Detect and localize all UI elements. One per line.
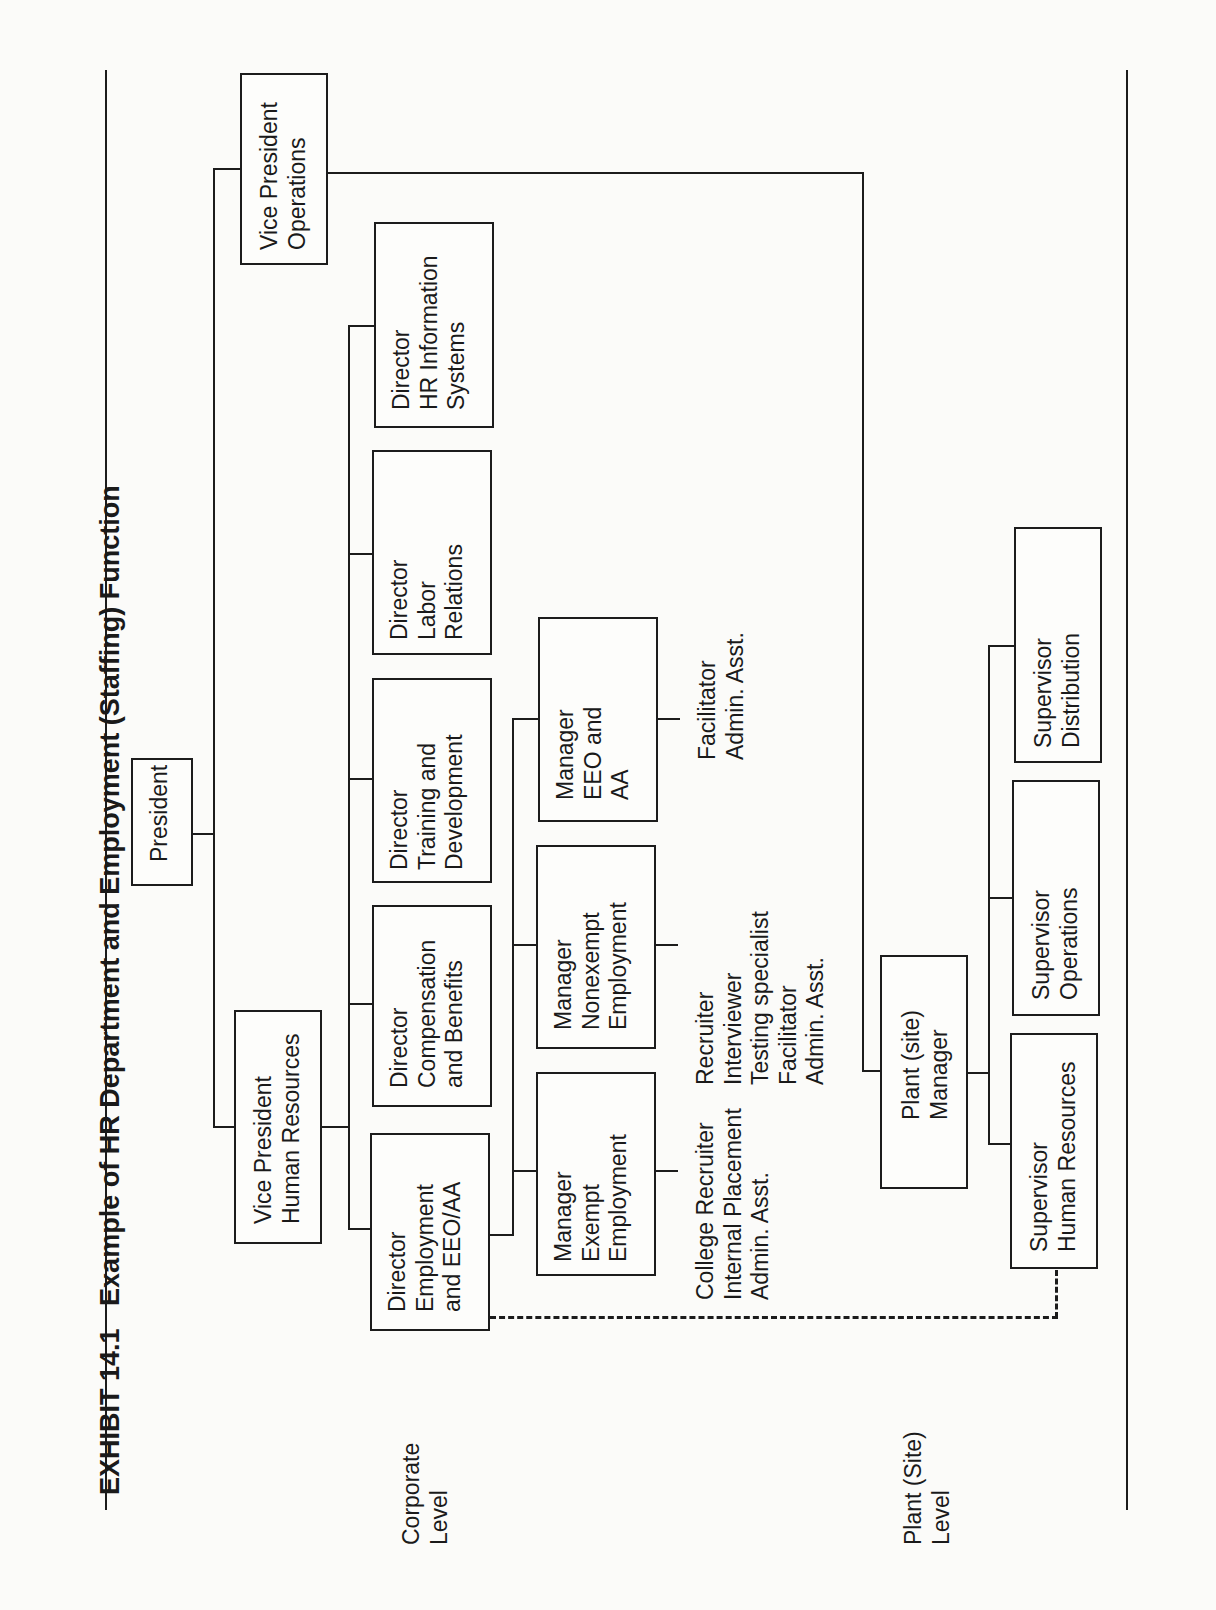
manager-nonexempt-label: Manager Nonexempt Employment — [550, 902, 633, 1030]
manager-exempt-label: Manager Exempt Employment — [550, 1134, 633, 1262]
bottom-rule — [1126, 70, 1128, 1510]
director-employment-label: Director Employment and EEO/AA — [384, 1182, 467, 1312]
director-labor-label: Director Labor Relations — [386, 544, 469, 640]
supervisor-operations-label: Supervisor Operations — [1028, 887, 1083, 1000]
plant-manager-label: Plant (site) Manager — [898, 1010, 953, 1120]
vp-connector — [213, 168, 215, 1128]
dotted-reporting-line — [490, 1316, 1058, 1319]
exhibit-caption: Example of HR Department and Employment … — [95, 485, 125, 1306]
corporate-level-label: Corporate Level — [398, 1443, 453, 1545]
vp-hr-label: Vice President Human Resources — [250, 1034, 305, 1224]
director-compensation-label: Director Compensation and Benefits — [386, 940, 469, 1088]
plant-level-label: Plant (Site) Level — [900, 1431, 955, 1545]
manager-eeo-label: Manager EEO and AA — [552, 707, 635, 800]
exhibit-number: EXHIBIT 14.1 — [95, 1328, 125, 1495]
supervisor-distribution-label: Supervisor Distribution — [1030, 633, 1085, 748]
eeo-staff-list: Facilitator Admin. Asst. — [694, 632, 749, 760]
director-hris-label: Director HR Information Systems — [388, 255, 471, 410]
supervisor-hr-label: Supervisor Human Resources — [1026, 1062, 1081, 1252]
president-label: President — [146, 765, 174, 862]
exhibit-title: EXHIBIT 14.1 Example of HR Department an… — [62, 485, 127, 1510]
director-training-label: Director Training and Development — [386, 734, 469, 870]
nonexempt-staff-list: Recruiter Interviewer Testing specialist… — [692, 911, 830, 1085]
exempt-staff-list: College Recruiter Internal Placement Adm… — [692, 1108, 775, 1300]
vp-ops-label: Vice President Operations — [256, 102, 311, 250]
